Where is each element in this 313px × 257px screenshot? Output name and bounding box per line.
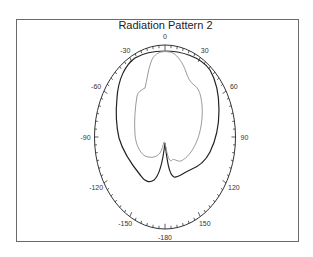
angle-tick	[227, 98, 229, 99]
angle-tick	[229, 167, 231, 168]
angle-tick	[97, 113, 99, 114]
angle-tick-label: 0	[163, 33, 167, 40]
angle-tick	[135, 54, 136, 57]
angle-tick	[213, 72, 215, 74]
angle-tick	[217, 194, 219, 196]
angle-tick	[188, 51, 189, 54]
angle-tick-label: -120	[89, 184, 103, 191]
angle-tick-label: 120	[228, 184, 240, 191]
angle-tick	[231, 113, 233, 114]
angle-tick-label: -180	[158, 234, 172, 241]
angle-tick	[135, 218, 136, 221]
angle-tick	[227, 175, 229, 176]
angle-tick-label: -150	[118, 220, 132, 227]
angle-tick	[194, 54, 195, 57]
angle-tick-label: -30	[120, 47, 130, 54]
angle-tick	[204, 210, 205, 212]
angle-ticks	[95, 45, 236, 229]
angle-tick	[115, 72, 117, 74]
angle-tick	[115, 200, 117, 202]
angle-tick	[229, 106, 231, 107]
angle-tick	[213, 200, 215, 202]
angle-tick	[183, 48, 184, 51]
angle-tick-label: 60	[230, 83, 238, 90]
angle-tick-label: -60	[91, 83, 101, 90]
angle-tick	[231, 160, 233, 161]
angle-tick	[125, 62, 126, 64]
polar-plot: 0306090120150-180-150-120-90-60-30	[0, 0, 313, 257]
angle-tick-label: 150	[199, 220, 211, 227]
angle-tick	[194, 218, 195, 221]
angle-tick	[104, 180, 107, 183]
angle-tick	[99, 106, 101, 107]
angle-tick	[101, 175, 103, 176]
angle-tick	[188, 221, 189, 224]
angle-tick	[111, 78, 113, 80]
angle-tick	[104, 91, 107, 94]
angle-tick-label: 90	[241, 134, 249, 141]
angle-tick	[125, 210, 126, 212]
angle-tick	[198, 212, 200, 217]
angle-tick	[120, 205, 121, 207]
angle-tick	[120, 67, 121, 69]
angle-tick	[97, 160, 99, 161]
angle-tick	[107, 84, 109, 86]
angle-tick-label: -90	[80, 134, 90, 141]
series-gray-curve	[135, 52, 203, 162]
angle-tick-labels: 0306090120150-180-150-120-90-60-30	[80, 33, 248, 240]
angle-tick	[223, 91, 226, 94]
angle-tick	[141, 221, 142, 224]
angle-tick	[147, 223, 148, 226]
angle-tick	[217, 78, 219, 80]
angle-tick	[221, 188, 223, 190]
angle-tick	[107, 188, 109, 190]
angle-tick	[141, 51, 142, 54]
angle-tick	[130, 212, 132, 217]
angle-tick	[101, 98, 103, 99]
angle-tick	[111, 194, 113, 196]
angle-tick	[221, 84, 223, 86]
angle-tick-label: 30	[201, 47, 209, 54]
series-dark-curve	[116, 51, 219, 182]
angle-tick	[223, 180, 226, 183]
angle-tick	[183, 223, 184, 226]
angle-tick	[147, 48, 148, 51]
angle-tick	[99, 167, 101, 168]
angle-tick	[209, 205, 210, 207]
